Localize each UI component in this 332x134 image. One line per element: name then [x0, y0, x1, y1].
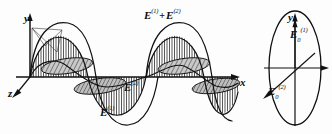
label-resultant-sup-2: (2) [173, 7, 180, 14]
axis-label-y-left-text: y [24, 12, 29, 24]
label-amplitude-e02-sup: (2) [279, 83, 286, 90]
label-wave-e1: E(1) [100, 103, 114, 119]
left-panel [12, 0, 241, 134]
axis-z-left [12, 77, 30, 98]
axis-label-y-right: y [288, 8, 293, 24]
axis-label-x-left: x [240, 73, 246, 89]
label-wave-e2-sup: (2) [131, 79, 138, 86]
label-wave-e1-sup: (1) [107, 104, 114, 111]
label-resultant-plus: + [158, 10, 166, 21]
label-amplitude-e01-sub: 0 [297, 36, 300, 43]
axis-label-y-right-text: y [288, 11, 293, 23]
label-amplitude-e02: E0(2) [268, 82, 286, 101]
axis-label-x-left-text: x [240, 76, 246, 88]
label-wave-e2: E(2) [124, 78, 138, 94]
hatch-wave1-trough-1 [89, 0, 144, 134]
label-amplitude-e01: E0(1) [290, 25, 308, 44]
label-amplitude-e01-sup: (1) [301, 26, 308, 33]
axis-label-z-left: z [8, 84, 12, 100]
label-amplitude-e02-sub: 0 [275, 93, 278, 100]
figure-root: E(1)+E(2) E(2) E(1) y z x y E0(1) E0(2) [0, 0, 332, 134]
axis-label-z-left-text: z [8, 87, 12, 99]
label-resultant-field: E(1)+E(2) [144, 6, 180, 22]
axis-label-y-left: y [24, 9, 29, 25]
